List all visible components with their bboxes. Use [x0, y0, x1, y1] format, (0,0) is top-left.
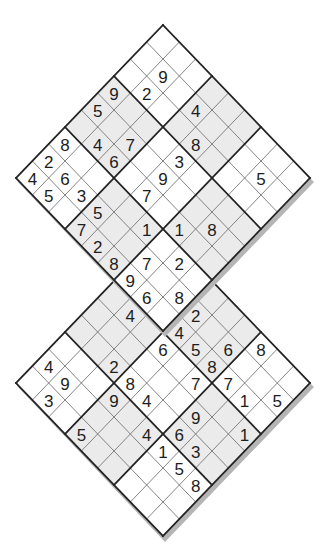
given-digit: 8 — [191, 477, 200, 496]
given-digit: 7 — [191, 375, 200, 394]
given-digit: 9 — [158, 68, 167, 87]
given-digit: 4 — [28, 170, 37, 189]
given-digit: 4 — [175, 324, 184, 343]
given-digit: 2 — [142, 85, 151, 104]
given-digit: 6 — [175, 426, 184, 445]
given-digit: 1 — [175, 221, 184, 240]
given-digit: 8 — [207, 358, 216, 377]
given-digit: 1 — [240, 392, 249, 411]
given-digit: 8 — [256, 341, 265, 360]
given-digit: 7 — [77, 221, 86, 240]
given-digit: 8 — [175, 289, 184, 308]
given-digit: 2 — [175, 255, 184, 274]
given-digit: 9 — [109, 392, 118, 411]
given-digit: 5 — [93, 204, 102, 223]
given-digit: 6 — [158, 341, 167, 360]
given-digit: 6 — [60, 170, 69, 189]
given-digit: 2 — [191, 307, 200, 326]
given-digit: 8 — [191, 136, 200, 155]
given-digit: 5 — [93, 102, 102, 121]
given-digit: 7 — [126, 136, 135, 155]
given-digit: 4 — [44, 358, 53, 377]
given-digit: 2 — [109, 358, 118, 377]
given-digit: 4 — [191, 102, 200, 121]
given-digit: 5 — [77, 426, 86, 445]
given-digit: 5 — [44, 187, 53, 206]
given-digit: 2 — [44, 153, 53, 172]
given-digit: 5 — [175, 460, 184, 479]
given-digit: 1 — [240, 426, 249, 445]
given-digit: 8 — [207, 221, 216, 240]
given-digit: 5 — [191, 341, 200, 360]
given-digit: 3 — [44, 392, 53, 411]
given-digit: 4 — [142, 392, 151, 411]
given-digit: 4 — [126, 307, 135, 326]
given-digit: 8 — [60, 136, 69, 155]
given-digit: 1 — [158, 443, 167, 462]
given-digit: 2 — [93, 238, 102, 257]
given-digit: 4 — [93, 136, 102, 155]
given-digit: 3 — [77, 187, 86, 206]
given-digit: 3 — [175, 153, 184, 172]
given-digit: 6 — [224, 341, 233, 360]
given-digit: 4 — [142, 426, 151, 445]
given-digit: 9 — [158, 170, 167, 189]
sudoku-board: 287826596458714671928463941584935 945289… — [0, 0, 329, 558]
given-digit: 9 — [191, 409, 200, 428]
given-digit: 7 — [224, 375, 233, 394]
top-grid: 9452893579846718122635784572896 — [16, 25, 314, 337]
given-digit: 3 — [191, 443, 200, 462]
given-digit: 7 — [142, 255, 151, 274]
given-digit: 5 — [256, 170, 265, 189]
given-digit: 8 — [126, 375, 135, 394]
given-digit: 8 — [109, 255, 118, 274]
given-digit: 7 — [142, 187, 151, 206]
given-digit: 9 — [60, 375, 69, 394]
given-digit: 9 — [126, 272, 135, 291]
given-digit: 1 — [142, 221, 151, 240]
given-digit: 5 — [273, 392, 282, 411]
given-digit: 9 — [109, 85, 118, 104]
given-digit: 6 — [109, 153, 118, 172]
given-digit: 6 — [142, 289, 151, 308]
